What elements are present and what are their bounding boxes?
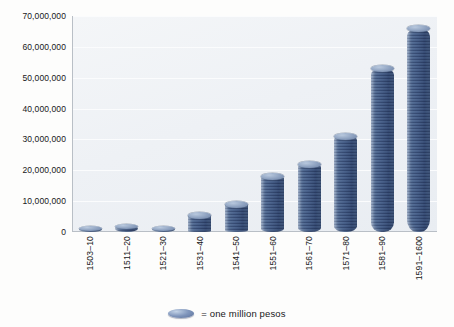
coin-stack bbox=[115, 226, 138, 232]
bar-10 bbox=[407, 16, 430, 232]
legend-label: = one million pesos bbox=[201, 308, 285, 319]
y-axis-tick: 20,000,000 bbox=[22, 165, 66, 175]
bar-4 bbox=[188, 16, 211, 232]
y-axis-tick: 0 bbox=[61, 227, 66, 237]
y-axis: 70,000,000 60,000,000 50,000,000 40,000,… bbox=[0, 0, 70, 248]
y-axis-tick: 60,000,000 bbox=[22, 42, 66, 52]
bar-2 bbox=[115, 16, 138, 232]
y-axis-tick: 10,000,000 bbox=[22, 196, 66, 206]
x-axis-tick: 1521–30 bbox=[158, 236, 168, 271]
chart-container: 70,000,000 60,000,000 50,000,000 40,000,… bbox=[0, 0, 454, 327]
coin-stack bbox=[298, 164, 321, 232]
coin-ellipse-icon bbox=[168, 309, 194, 318]
coin-stack bbox=[152, 228, 175, 232]
x-axis-tick: 1581–90 bbox=[377, 236, 387, 271]
x-axis-tick: 1561–70 bbox=[304, 236, 314, 271]
bar-3 bbox=[152, 16, 175, 232]
bar-7 bbox=[298, 16, 321, 232]
coin-stack bbox=[79, 228, 102, 232]
bar-8 bbox=[334, 16, 357, 232]
bars-layer bbox=[72, 16, 437, 232]
coin-stack bbox=[261, 176, 284, 232]
bar-1 bbox=[79, 16, 102, 232]
x-axis-tick: 1531–40 bbox=[195, 236, 205, 271]
bar-5 bbox=[225, 16, 248, 232]
x-axis-tick: 1571–80 bbox=[341, 236, 351, 271]
coin-stack bbox=[407, 28, 430, 232]
x-axis-tick: 1541–50 bbox=[231, 236, 241, 271]
y-axis-tick: 50,000,000 bbox=[22, 73, 66, 83]
y-axis-tick: 40,000,000 bbox=[22, 104, 66, 114]
x-axis-tick: 1551–60 bbox=[268, 236, 278, 271]
coin-stack bbox=[188, 215, 211, 232]
x-axis-tick: 1511–20 bbox=[122, 236, 132, 270]
coin-stack bbox=[334, 136, 357, 232]
y-axis-tick: 70,000,000 bbox=[22, 11, 66, 21]
bar-9 bbox=[371, 16, 394, 232]
y-axis-tick: 30,000,000 bbox=[22, 134, 66, 144]
bar-6 bbox=[261, 16, 284, 232]
chart-legend: = one million pesos bbox=[0, 308, 454, 319]
x-axis: 1503–101511–201521–301531–401541–501551–… bbox=[72, 236, 437, 298]
coin-stack bbox=[225, 204, 248, 232]
coin-stack bbox=[371, 68, 394, 232]
x-axis-tick: 1503–10 bbox=[85, 236, 95, 271]
x-axis-tick: 1591–1600 bbox=[414, 236, 424, 280]
